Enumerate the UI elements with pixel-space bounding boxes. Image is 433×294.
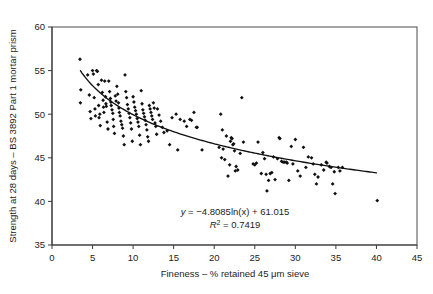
y-tick-label-45: 45	[34, 152, 45, 163]
x-tick-label-0: 0	[49, 252, 54, 263]
chart-figure: 051015202530354045 354045505560 y = −4.8…	[0, 0, 433, 294]
x-tick-label-20: 20	[209, 252, 220, 263]
y-tick-label-60: 60	[34, 21, 45, 32]
y-tick-label-55: 55	[34, 65, 45, 76]
x-tick-label-15: 15	[168, 252, 179, 263]
x-axis-title: Fineness – % retained 45 μm sieve	[161, 268, 310, 279]
y-axis-title: Strength at 28 days – BS 3892 Part 1 mor…	[7, 29, 18, 242]
figure-background	[0, 0, 433, 294]
x-tick-label-25: 25	[249, 252, 260, 263]
scatter-chart-svg: 051015202530354045 354045505560 y = −4.8…	[0, 0, 433, 294]
y-tick-label-35: 35	[34, 239, 45, 250]
x-tick-label-35: 35	[331, 252, 342, 263]
x-tick-label-30: 30	[290, 252, 301, 263]
y-tick-label-40: 40	[34, 196, 45, 207]
x-tick-label-10: 10	[128, 252, 139, 263]
x-tick-label-45: 45	[412, 252, 423, 263]
x-tick-label-40: 40	[371, 252, 382, 263]
x-tick-label-5: 5	[90, 252, 95, 263]
y-tick-label-50: 50	[34, 109, 45, 120]
regression-equation-label: y = −4.8085ln(x) + 61.015	[180, 206, 290, 217]
